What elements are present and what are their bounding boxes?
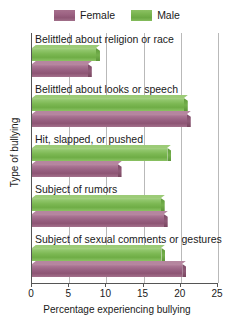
bar-front-face [32, 164, 118, 177]
bar-end-cap [161, 248, 165, 261]
plot-area: Belittled about religion or raceBelittle… [31, 33, 218, 283]
bar-end-cap [187, 114, 191, 127]
male-swatch-icon [131, 10, 152, 21]
x-axis-tick-label: 20 [174, 288, 185, 299]
bar-group: Belittled about religion or race [32, 33, 218, 83]
legend-entry-female: Female [54, 10, 115, 21]
bar-front-face [32, 98, 184, 111]
x-axis-tick [143, 283, 144, 287]
x-axis-tick [217, 283, 218, 287]
bar-front-face [32, 148, 167, 161]
bar-end-cap [164, 214, 168, 227]
bar-group: Subject of rumors [32, 183, 218, 233]
bar-female [32, 214, 164, 227]
bar-front-face [32, 214, 164, 227]
bar-male [32, 98, 184, 111]
x-axis-label: Percentage experiencing bullying [0, 304, 234, 315]
legend-entry-male: Male [131, 10, 180, 21]
bar-front-face [32, 248, 161, 261]
bar-front-face [32, 64, 88, 77]
bar-group: Hit, slapped, or pushed [32, 133, 218, 183]
chart-screenshot: Female Male Belittled about religion or … [0, 0, 234, 324]
x-axis-line [31, 283, 218, 284]
bar-male [32, 48, 96, 61]
bar-front-face [32, 48, 96, 61]
bar-front-face [32, 198, 161, 211]
bar-female [32, 64, 88, 77]
bar-front-face [32, 264, 182, 277]
x-axis-tick-label: 25 [211, 288, 222, 299]
bar-group: Subject of sexual comments or gestures [32, 233, 218, 283]
bar-female [32, 164, 118, 177]
legend-label-male: Male [157, 10, 180, 21]
bar-female [32, 114, 187, 127]
legend-label-female: Female [80, 10, 115, 21]
x-axis-tick-label: 10 [100, 288, 111, 299]
x-axis-tick [105, 283, 106, 287]
bar-front-face [32, 114, 187, 127]
x-axis-tick [180, 283, 181, 287]
bar-end-cap [96, 48, 100, 61]
bar-female [32, 264, 182, 277]
y-axis-label: Type of bullying [9, 88, 20, 218]
bar-groups: Belittled about religion or raceBelittle… [32, 33, 218, 283]
bar-male [32, 248, 161, 261]
x-axis-tick-label: 5 [65, 288, 71, 299]
x-axis-tick-label: 0 [28, 288, 34, 299]
bar-male [32, 148, 167, 161]
bar-group: Belittled about looks or speech [32, 83, 218, 133]
female-swatch-icon [54, 10, 75, 21]
x-axis-tick [68, 283, 69, 287]
bar-end-cap [184, 98, 188, 111]
x-axis-tick-label: 15 [137, 288, 148, 299]
x-axis-tick [31, 283, 32, 287]
bar-end-cap [161, 198, 165, 211]
bar-end-cap [182, 264, 186, 277]
bar-end-cap [118, 164, 122, 177]
bar-male [32, 198, 161, 211]
chart-legend: Female Male [0, 10, 234, 21]
bar-end-cap [167, 148, 171, 161]
bar-end-cap [88, 64, 92, 77]
